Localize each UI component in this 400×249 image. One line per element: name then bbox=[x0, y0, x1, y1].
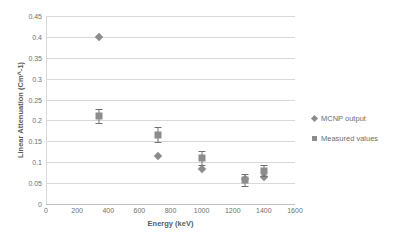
data-point-diamond bbox=[95, 33, 103, 41]
y-tick-label: 0.2 bbox=[32, 117, 42, 124]
x-tick-label: 1000 bbox=[194, 206, 210, 215]
x-axis-line bbox=[46, 204, 295, 205]
error-bar-cap bbox=[155, 127, 162, 128]
error-bar-cap bbox=[155, 142, 162, 143]
data-point-diamond bbox=[154, 152, 162, 160]
legend-label: MCNP output bbox=[321, 114, 366, 123]
y-axis-title: Linear Attenuation (Cm^-1) bbox=[14, 16, 28, 204]
gridline bbox=[46, 162, 295, 163]
y-tick-label: 0.45 bbox=[28, 13, 42, 20]
error-bar-cap bbox=[198, 165, 205, 166]
x-tick-label: 400 bbox=[102, 206, 114, 215]
gridline bbox=[46, 37, 295, 38]
chart-legend: MCNP outputMeasured values bbox=[312, 110, 398, 150]
chart-container: 00.050.10.150.20.250.30.350.40.45 020040… bbox=[0, 0, 400, 249]
y-tick-label: 0.4 bbox=[32, 33, 42, 40]
error-bar-cap bbox=[95, 109, 102, 110]
error-bar-cap bbox=[198, 151, 205, 152]
x-tick-label: 1400 bbox=[256, 206, 272, 215]
x-tick-label: 600 bbox=[134, 206, 146, 215]
data-point-square bbox=[260, 167, 267, 174]
y-tick-label: 0.25 bbox=[28, 96, 42, 103]
error-bar-cap bbox=[260, 176, 267, 177]
gridline bbox=[46, 16, 295, 17]
error-bar-cap bbox=[95, 123, 102, 124]
y-tick-label: 0 bbox=[38, 201, 42, 208]
x-axis-tick-labels: 02004006008001000120014001600 bbox=[46, 206, 295, 218]
y-tick-label: 0.05 bbox=[28, 180, 42, 187]
y-axis-line bbox=[46, 16, 47, 204]
gridline bbox=[46, 58, 295, 59]
legend-label: Measured values bbox=[321, 134, 378, 143]
x-tick-label: 200 bbox=[71, 206, 83, 215]
y-tick-label: 0.1 bbox=[32, 159, 42, 166]
data-point-square bbox=[198, 155, 205, 162]
gridline bbox=[46, 183, 295, 184]
x-tick-label: 1200 bbox=[225, 206, 241, 215]
y-tick-label: 0.35 bbox=[28, 54, 42, 61]
legend-diamond-icon bbox=[311, 114, 318, 121]
legend-item[interactable]: Measured values bbox=[312, 130, 398, 146]
data-point-diamond bbox=[197, 165, 205, 173]
y-tick-label: 0.15 bbox=[28, 138, 42, 145]
x-axis-title: Energy (keV) bbox=[46, 219, 295, 228]
legend-item[interactable]: MCNP output bbox=[312, 110, 398, 126]
data-point-square bbox=[95, 113, 102, 120]
error-bar-cap bbox=[260, 165, 267, 166]
data-point-square bbox=[242, 176, 249, 183]
legend-square-icon bbox=[312, 136, 317, 141]
y-tick-label: 0.3 bbox=[32, 75, 42, 82]
gridline bbox=[46, 120, 295, 121]
gridline bbox=[46, 141, 295, 142]
gridline bbox=[46, 100, 295, 101]
gridline bbox=[46, 79, 295, 80]
data-point-square bbox=[155, 131, 162, 138]
x-tick-label: 0 bbox=[44, 206, 48, 215]
plot-area bbox=[46, 16, 295, 204]
error-bar-cap bbox=[242, 174, 249, 175]
error-bar-cap bbox=[242, 186, 249, 187]
x-tick-label: 1600 bbox=[287, 206, 303, 215]
x-tick-label: 800 bbox=[165, 206, 177, 215]
